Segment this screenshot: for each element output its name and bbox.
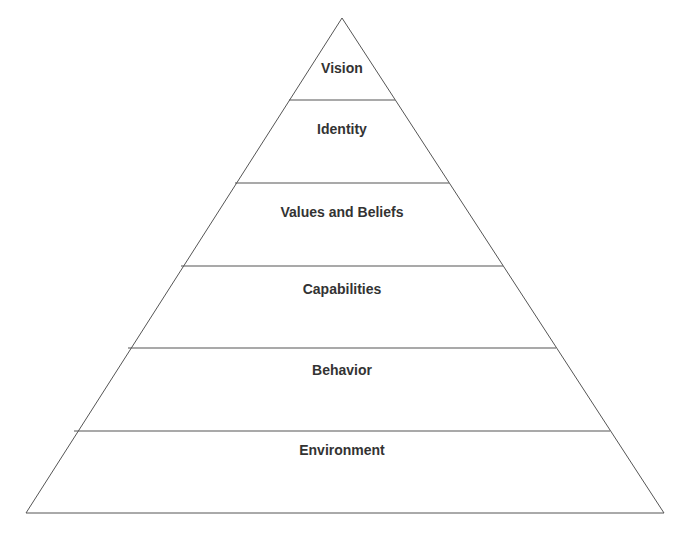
level-label-values-beliefs: Values and Beliefs	[281, 204, 404, 220]
pyramid-diagram: Vision Identity Values and Beliefs Capab…	[0, 0, 685, 542]
level-label-vision: Vision	[321, 60, 363, 76]
level-label-capabilities: Capabilities	[303, 281, 382, 297]
level-label-environment: Environment	[299, 442, 385, 458]
level-label-identity: Identity	[317, 121, 367, 137]
level-label-behavior: Behavior	[312, 362, 372, 378]
